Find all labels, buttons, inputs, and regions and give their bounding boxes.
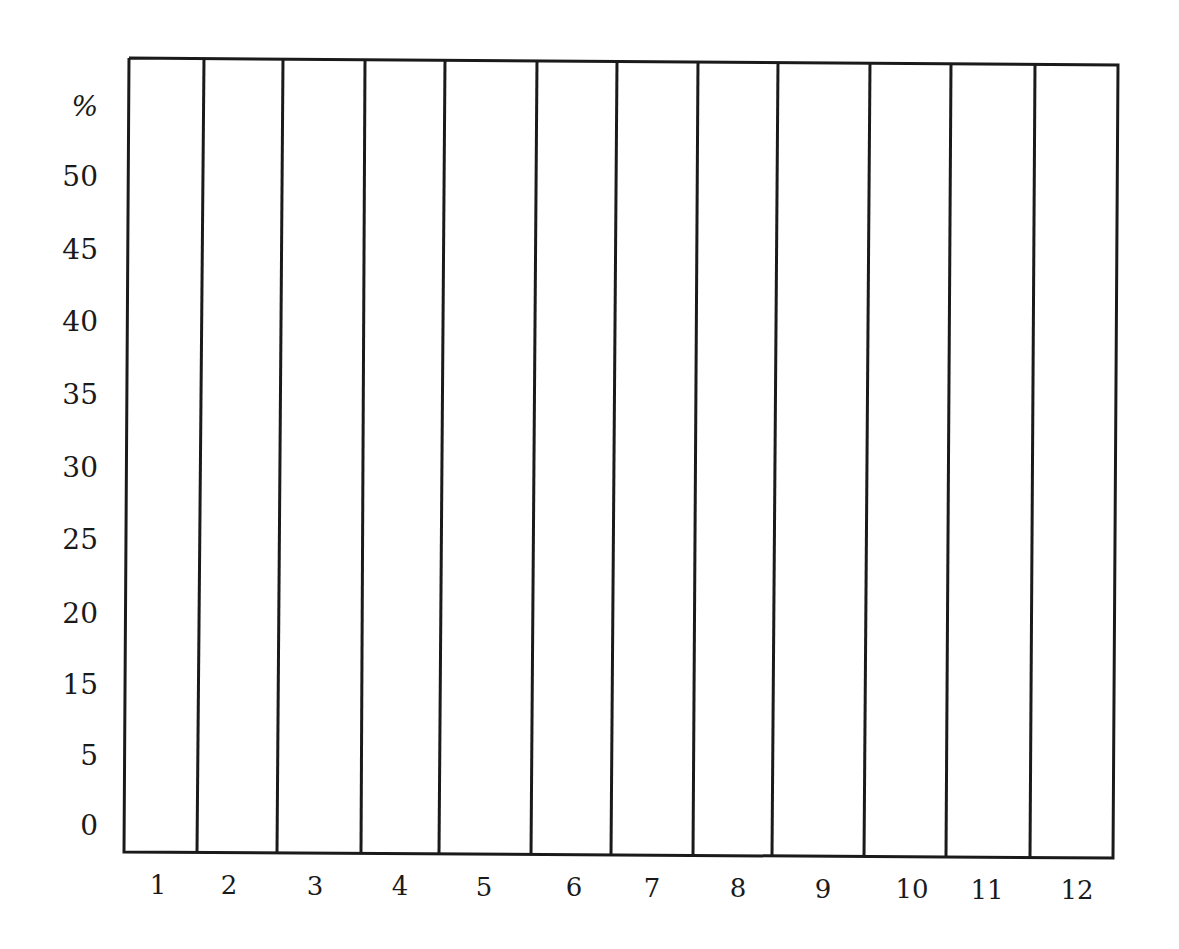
y-tick-label: 5 <box>38 739 98 772</box>
y-tick-label: 20 <box>38 597 98 630</box>
y-tick-label: 50 <box>38 160 98 193</box>
x-tick-label: 5 <box>459 872 509 902</box>
y-tick-label: 45 <box>38 233 98 266</box>
x-tick-label: 11 <box>962 875 1012 905</box>
x-tick-label: 10 <box>887 874 937 904</box>
x-tick-label: 7 <box>627 873 677 903</box>
y-tick-label: 40 <box>38 305 98 338</box>
x-tick-label: 3 <box>290 871 340 901</box>
bar-chart-template: % 50 45 40 35 30 25 20 15 5 0 1 2 3 4 5 … <box>0 0 1179 949</box>
x-tick-label: 8 <box>713 873 763 903</box>
x-tick-label: 6 <box>549 872 599 902</box>
y-tick-label: 35 <box>38 378 98 411</box>
x-tick-label: 9 <box>798 874 848 904</box>
chart-frame <box>0 0 1179 949</box>
y-tick-label: 30 <box>38 451 98 484</box>
y-tick-label: 25 <box>38 523 98 556</box>
y-axis-unit-label: % <box>38 90 98 123</box>
x-tick-label: 1 <box>133 870 183 900</box>
x-tick-label: 4 <box>375 871 425 901</box>
y-tick-label: 0 <box>38 809 98 842</box>
y-tick-label: 15 <box>38 668 98 701</box>
x-tick-label: 2 <box>204 870 254 900</box>
x-tick-label: 12 <box>1052 875 1102 905</box>
